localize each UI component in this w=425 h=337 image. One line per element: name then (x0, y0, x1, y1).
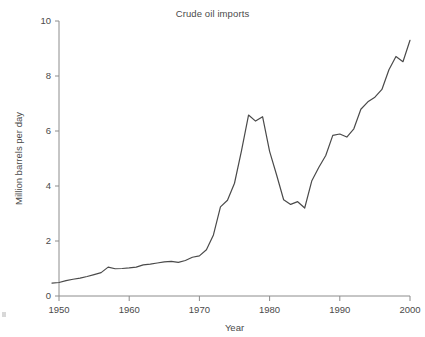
plot-area: 0246810 195019601970198019902000 YearMil… (0, 0, 425, 337)
data-series-group (52, 40, 410, 283)
y-axis-tick-label: 10 (40, 15, 51, 26)
x-axis-tick-label: 1970 (189, 304, 210, 315)
x-axis-tick-label: 2000 (399, 304, 420, 315)
data-series-line (52, 40, 410, 283)
page-edge-artifact (2, 312, 6, 317)
y-axis-tick-label: 4 (46, 180, 51, 191)
y-axis-tick-label: 0 (46, 290, 51, 301)
y-axis: 0246810 (40, 15, 59, 301)
x-axis: 195019601970198019902000 (48, 296, 420, 315)
y-axis-tick-label: 2 (46, 235, 51, 246)
x-axis-title: Year (225, 322, 244, 333)
x-axis-tick-label: 1990 (329, 304, 350, 315)
x-axis-tick-label: 1960 (119, 304, 140, 315)
x-axis-tick-label: 1950 (48, 304, 69, 315)
y-axis-tick-label: 6 (46, 125, 51, 136)
y-axis-tick-label: 8 (46, 70, 51, 81)
chart-figure: Crude oil imports 0246810 19501960197019… (0, 0, 425, 337)
x-axis-tick-label: 1980 (259, 304, 280, 315)
y-axis-title: Million barrels per day (13, 112, 24, 205)
